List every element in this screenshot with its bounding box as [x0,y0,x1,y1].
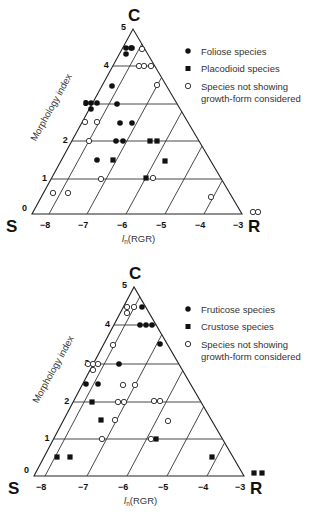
rgr-tick-4: −4 [195,220,205,230]
ternary-plot-foliose-placodioid: CSR012345−8−7−6−5−4−3Morphology indexln(… [6,6,301,245]
morphology-tick-4: 4 [105,319,110,329]
y-axis-title: Morphology index [30,334,76,405]
square-data-point [98,417,103,422]
filled-data-point [123,45,129,51]
filled-data-point [95,381,101,387]
square-data-point [89,399,94,404]
series-crustose-species [54,399,264,475]
x-axis-title: ln(RGR) [124,495,157,507]
rgr-line-−5 [167,407,204,476]
rgr-line-−7 [87,77,162,214]
square-data-point [153,436,158,441]
filled-data-point [137,322,143,328]
open-data-point [94,119,99,124]
morphology-tick-4: 4 [104,60,109,70]
open-data-point [95,361,100,366]
open-data-point [90,367,95,372]
open-data-point [112,417,117,422]
filled-data-point [88,100,94,106]
legend-filled-square-icon [186,66,191,71]
filled-data-point [83,100,89,106]
legend-label-2b: growth-form considered [201,93,301,104]
legend-filled-square-icon [186,324,191,329]
rgr-tick-5: −3 [233,220,243,230]
filled-data-point [88,106,94,112]
open-data-point [151,398,156,403]
open-data-point [120,382,125,387]
legend-filled-circle-icon [185,306,190,311]
open-data-point [82,119,87,124]
filled-data-point [129,45,135,51]
open-data-point [255,209,260,214]
filled-data-point [157,341,163,347]
open-data-point [115,399,120,404]
open-data-point [154,82,159,87]
vertex-label-c: C [129,264,141,283]
open-data-point [86,138,91,143]
open-data-point [131,304,136,309]
morphology-tick-1: 1 [42,173,47,183]
rgr-tick-3: −5 [158,482,168,492]
legend-label-0: Fruticose species [201,304,275,315]
series-placodioid-species [110,138,167,180]
vertex-label-r: R [250,479,262,498]
x-axis-title: ln(RGR) [122,233,155,245]
vertex-label-r: R [248,217,260,236]
filled-data-point [94,100,100,106]
square-data-point [154,138,159,143]
legend-label-1: Placodioid species [201,63,280,74]
filled-data-point [123,51,129,57]
morphology-tick-5: 5 [122,280,127,290]
open-data-point [124,304,129,309]
rgr-tick-4: −4 [198,482,208,492]
open-data-point [148,436,153,441]
y-axis-title: Morphology index [28,72,74,143]
filled-data-point [143,322,149,328]
open-data-point [65,190,70,195]
open-data-point [99,436,104,441]
square-data-point [162,158,167,163]
square-data-point [67,454,72,459]
morphology-tick-2: 2 [63,135,68,145]
square-data-point [209,454,214,459]
square-data-point [54,454,59,459]
filled-data-point [113,138,119,144]
open-data-point [141,63,146,68]
morphology-tick-5: 5 [121,22,126,32]
vertex-label-s: S [8,479,19,498]
rgr-line-−5 [165,146,202,214]
vertex-label-c: C [128,6,140,25]
open-data-point [157,398,162,403]
vertex-label-s: S [6,217,17,236]
rgr-tick-1: −7 [78,220,88,230]
filled-data-point [129,120,135,126]
filled-data-point [149,322,155,328]
filled-data-point [120,138,126,144]
rgr-tick-5: −3 [235,482,245,492]
rgr-line-−7 [87,335,162,476]
filled-data-point [117,120,123,126]
legend-label-2b: growth-form considered [201,351,301,362]
square-data-point [143,175,148,180]
open-data-point [50,190,55,195]
morphology-tick-0: 0 [22,203,27,213]
open-data-point [132,382,137,387]
filled-data-point [94,157,100,163]
rgr-line-−8 [49,44,142,214]
morphology-tick-1: 1 [45,433,50,443]
legend-label-0: Foliose species [201,46,267,57]
open-data-point [150,175,155,180]
open-data-point [121,399,126,404]
legend-filled-circle-icon [185,48,190,53]
legend-open-circle-icon [185,341,190,346]
square-data-point [251,470,256,475]
morphology-tick-0: 0 [24,465,29,475]
square-data-point [259,470,264,475]
rgr-tick-2: −6 [118,482,128,492]
filled-data-point [139,304,145,310]
rgr-tick-1: −7 [78,482,88,492]
csr-ternary-figure: CSR012345−8−7−6−5−4−3Morphology indexln(… [0,0,326,517]
open-data-point [110,342,115,347]
open-data-point [208,194,213,199]
filled-data-point [83,381,89,387]
